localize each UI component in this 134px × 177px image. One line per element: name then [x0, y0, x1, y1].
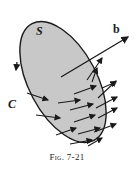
figure-caption: Fig. 7-21 — [0, 152, 134, 162]
label-c: C — [8, 97, 17, 111]
surface-diagram: S b C — [0, 0, 134, 177]
curve-orientation-arrow-icon — [16, 62, 17, 70]
label-s: S — [36, 24, 43, 38]
label-b: b — [113, 22, 120, 36]
surface-s — [2, 8, 124, 156]
